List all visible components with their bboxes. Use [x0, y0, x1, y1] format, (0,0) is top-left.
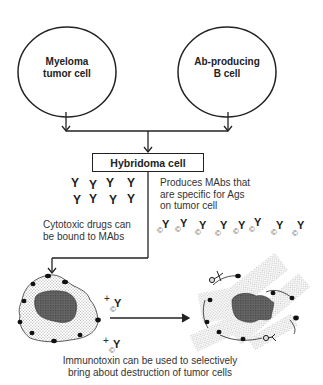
note-line: be bound to MAbs [43, 231, 131, 243]
myeloma-label-line2: tumor cell [30, 68, 104, 80]
note-line: Cytotoxic drugs can [43, 219, 131, 231]
plus-sign: + [103, 335, 109, 346]
antibody-icon: Y [180, 217, 187, 229]
myeloma-label-line1: Myeloma [30, 56, 104, 68]
produces-mabs-note: Produces MAbs that are specific for Ags … [160, 177, 250, 212]
antibody-icon: Y [127, 176, 135, 190]
antibody-icon: Y [276, 219, 283, 231]
antibody-icon: Y [89, 178, 97, 192]
note-line: on tumor cell [160, 200, 250, 212]
destroyed-tumor-cell [189, 253, 310, 352]
fusion-arrows [62, 112, 232, 152]
hybridoma-label: Hybridoma cell [110, 157, 185, 169]
caption-line: Immunotoxin can be used to selectively [0, 355, 300, 367]
plus-sign: + [104, 293, 110, 304]
antibody-icon: Y [127, 192, 135, 206]
antibody-icon: Y [71, 176, 79, 190]
antibody-icon: Y [73, 193, 81, 207]
immunotoxin-caption: Immunotoxin can be used to selectively b… [0, 355, 300, 378]
b-cell-label: Ab-producing B cell [183, 56, 271, 80]
antibody-icon: Y [109, 193, 117, 207]
note-line: are specific for Ags [160, 189, 250, 201]
antibody-icon: Y [220, 219, 227, 231]
antibody-icon: Y [254, 216, 261, 228]
b-cell-label-line2: B cell [183, 68, 271, 80]
hybridoma-cell-box: Hybridoma cell [92, 153, 204, 172]
antibody-icon: Y [297, 219, 304, 231]
cytotoxic-drugs-note: Cytotoxic drugs can be bound to MAbs [43, 219, 131, 242]
intact-tumor-cell [18, 274, 101, 343]
antibody-icon: Y [89, 192, 97, 206]
b-cell-label-line1: Ab-producing [183, 56, 271, 68]
destruction-arrow [110, 314, 189, 322]
antibody-icon: Y [238, 219, 245, 231]
myeloma-cell-label: Myeloma tumor cell [30, 56, 104, 80]
caption-line: bring about destruction of tumor cells [0, 367, 300, 379]
antibody-icon: Y [114, 297, 121, 309]
antibody-icon: Y [199, 219, 206, 231]
note-line: Produces MAbs that [160, 177, 250, 189]
antibody-icon: Y [113, 338, 120, 350]
antibody-icon: Y [162, 218, 169, 230]
antibody-icon: Y [106, 176, 114, 190]
